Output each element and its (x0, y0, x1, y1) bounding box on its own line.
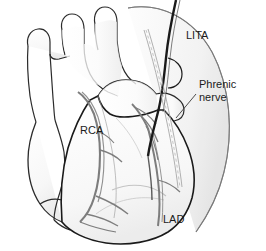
cardiac-illustration-figure: LITA Phrenic nerve RCA LAD (0, 0, 266, 251)
label-lad: LAD (163, 213, 184, 225)
label-phrenic-line1: Phrenic (199, 78, 237, 90)
label-phrenic-line2: nerve (199, 91, 227, 103)
label-lita: LITA (186, 29, 209, 41)
heart-diagram-svg: LITA Phrenic nerve RCA LAD (0, 0, 266, 251)
label-rca: RCA (80, 124, 104, 136)
